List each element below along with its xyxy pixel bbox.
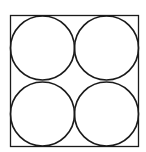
circle-bottom-right [75, 82, 139, 146]
circle-top-right [75, 16, 139, 80]
circle-group [11, 16, 139, 146]
outer-square [11, 16, 139, 147]
circle-top-left [11, 16, 75, 80]
circles-in-square-diagram [0, 0, 146, 152]
circle-bottom-left [11, 82, 75, 146]
